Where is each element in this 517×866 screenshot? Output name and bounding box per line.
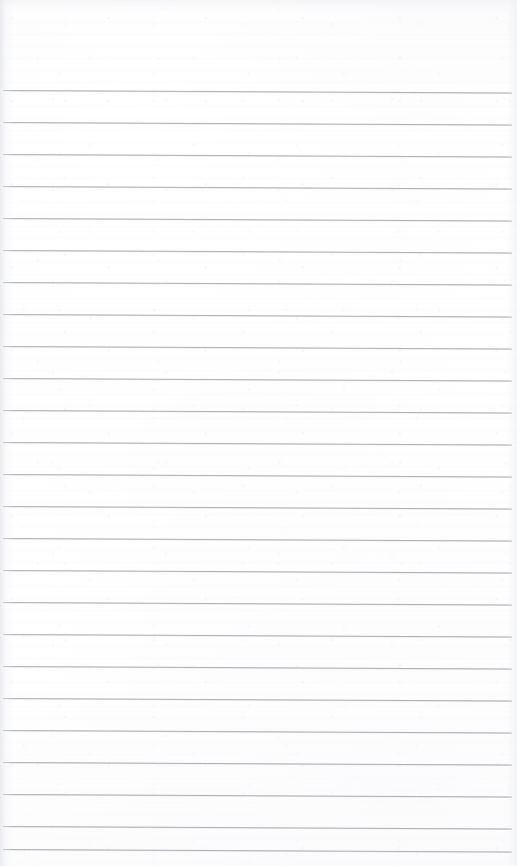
- scanned-page: [0, 0, 517, 866]
- paper-background: [0, 0, 517, 866]
